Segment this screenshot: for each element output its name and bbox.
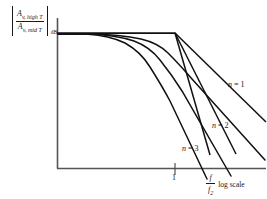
response-curve-n3 [58,34,207,179]
x-axis-numerator: f [208,173,214,183]
curve-label-n2: n = 2 [212,121,229,130]
x-axis-denominator: f2 [206,183,215,196]
figure-root: Av, high T Av, mid T dB 1 f f2 log scale… [0,0,267,199]
response-curve-n2 [58,34,231,176]
y-axis-units: dB [51,30,58,37]
response-curve-n1 [58,34,265,160]
asymptote-n1 [175,33,266,122]
x-tick-label-1: 1 [172,173,176,182]
abs-bar-right [47,6,48,36]
curve-label-n1: n = 1 [228,80,245,89]
curve-label-n3: n = 3 [182,144,199,153]
x-axis-label: f f2 log scale [206,173,245,196]
x-axis-scale-text: log scale [218,180,244,189]
y-axis-denominator: Av, mid T [16,21,44,33]
y-axis-fraction: Av, high T Av, mid T [15,10,45,32]
y-axis-label: Av, high T Av, mid T dB [10,6,57,36]
y-axis-numerator: Av, high T [15,10,45,21]
abs-bar-left [12,6,13,36]
x-axis-fraction: f f2 [206,173,215,196]
